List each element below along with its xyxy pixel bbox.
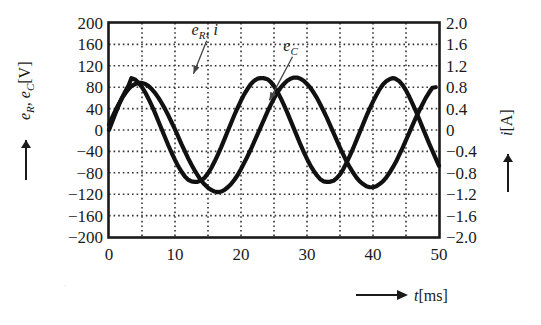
y2-tick-label: 0 (446, 121, 455, 140)
left-axis-unit: [V] (16, 61, 33, 83)
y-tick-label: 120 (78, 57, 104, 76)
y-tick-label: 40 (86, 100, 103, 119)
y2-tick-label: −1.6 (446, 207, 477, 226)
y2-tick-label: −1.2 (446, 185, 477, 204)
y-tick-label: 0 (95, 121, 104, 140)
waveform-chart: 20016012080400−40−80−120−160−200 2.01.61… (0, 0, 541, 325)
right-axis-unit: [A] (498, 109, 515, 131)
y2-tick-label: 2.0 (446, 14, 467, 33)
x-tick-label: 0 (105, 245, 114, 264)
y2-tick-label: 1.6 (446, 35, 467, 54)
y-tick-label: 160 (78, 35, 104, 54)
y-tick-label: −200 (68, 228, 103, 247)
y2-tick-label: 1.2 (446, 57, 467, 76)
left-axis-e1: e (16, 113, 33, 120)
y-tick-label: −120 (68, 185, 103, 204)
annotation-label-er-i: eR, i (192, 21, 218, 41)
y2-tick-label: 0.8 (446, 78, 467, 97)
svg-text:i[A]: i[A] (498, 109, 515, 136)
left-axis-comma: , e (16, 91, 33, 106)
x-tick-label: 50 (431, 245, 448, 264)
x-tick-label: 20 (233, 245, 250, 264)
y2-tick-label: −0.4 (446, 142, 477, 161)
x-axis-unit: [ms] (418, 287, 447, 304)
y2-tick-label: −2.0 (446, 228, 477, 247)
y-tick-label: −80 (76, 164, 103, 183)
y-tick-label: 80 (86, 78, 103, 97)
y-tick-label: −160 (68, 207, 103, 226)
y-tick-label: 200 (78, 14, 104, 33)
x-tick-label: 10 (167, 245, 184, 264)
y2-tick-label: −0.8 (446, 164, 477, 183)
y2-tick-label: 0.4 (446, 100, 468, 119)
y-tick-label: −40 (76, 142, 103, 161)
figure-container: 20016012080400−40−80−120−160−200 2.01.61… (0, 0, 541, 325)
x-tick-label: 40 (365, 245, 382, 264)
x-tick-label: 30 (299, 245, 316, 264)
svg-text:t[ms]: t[ms] (414, 287, 448, 304)
